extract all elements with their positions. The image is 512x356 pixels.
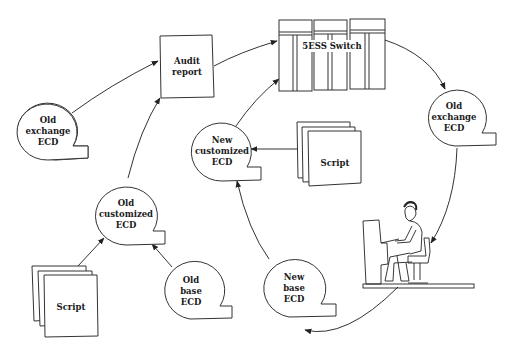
new-base-ecd-label-1: New bbox=[284, 272, 305, 282]
script-right-node: Script bbox=[297, 122, 361, 186]
audit-report-node: Audit report bbox=[160, 35, 214, 98]
old-base-ecd-label-1: Old bbox=[183, 275, 200, 285]
ecd-flow-diagram: Audit report 5ESS Switch Old exchange EC… bbox=[0, 0, 512, 356]
old-customized-ecd-label-1: Old bbox=[118, 198, 135, 208]
new-base-ecd-label-2: base bbox=[283, 283, 305, 293]
old-exchange-ecd-left-label-2: exchange bbox=[26, 126, 71, 136]
old-exchange-ecd-right-label-1: Old bbox=[446, 101, 463, 111]
new-customized-ecd-label-3: ECD bbox=[212, 157, 233, 167]
old-exchange-ecd-right-node: Old exchange ECD bbox=[428, 90, 496, 146]
old-exchange-ecd-left-node: Old exchange ECD bbox=[17, 103, 88, 160]
switch-node: 5ESS Switch bbox=[279, 19, 385, 91]
old-base-ecd-node: Old base ECD bbox=[165, 261, 232, 319]
edge-audit-to-switch bbox=[214, 41, 277, 66]
old-exchange-ecd-left-label-1: Old bbox=[40, 115, 57, 125]
old-customized-ecd-label-2: customized bbox=[99, 209, 153, 219]
audit-report-label-2: report bbox=[172, 67, 202, 77]
edge-new-base-to-new-customized bbox=[237, 181, 269, 259]
edge-old-exchange-to-operator bbox=[431, 148, 457, 243]
old-exchange-ecd-right-label-3: ECD bbox=[444, 123, 465, 133]
old-customized-ecd-node: Old customized ECD bbox=[95, 187, 165, 245]
old-exchange-ecd-right-label-2: exchange bbox=[432, 112, 477, 122]
new-customized-ecd-label-1: New bbox=[212, 135, 233, 145]
old-base-ecd-label-3: ECD bbox=[181, 297, 202, 307]
new-base-ecd-label-3: ECD bbox=[284, 294, 305, 304]
edge-script-left-to-old-customized bbox=[78, 238, 104, 266]
edge-old-exchange-to-audit bbox=[72, 61, 158, 113]
script-left-label: Script bbox=[57, 302, 86, 312]
script-right-label: Script bbox=[321, 158, 350, 168]
edge-new-customized-to-switch bbox=[236, 79, 279, 126]
new-customized-ecd-node: New customized ECD bbox=[191, 123, 261, 181]
edge-old-customized-to-audit bbox=[128, 98, 160, 178]
old-customized-ecd-label-3: ECD bbox=[116, 220, 137, 230]
old-base-ecd-label-2: base bbox=[180, 286, 202, 296]
switch-label: 5ESS Switch bbox=[302, 41, 361, 51]
script-left-node: Script bbox=[32, 266, 98, 337]
new-base-ecd-node: New base ECD bbox=[264, 260, 336, 317]
edge-switch-to-old-exchange bbox=[385, 40, 445, 89]
person-at-terminal-icon bbox=[363, 202, 474, 288]
audit-report-label-1: Audit bbox=[173, 56, 200, 66]
new-customized-ecd-label-2: customized bbox=[195, 146, 249, 156]
edge-old-base-to-old-customized bbox=[152, 244, 172, 267]
old-exchange-ecd-left-label-3: ECD bbox=[38, 137, 59, 147]
